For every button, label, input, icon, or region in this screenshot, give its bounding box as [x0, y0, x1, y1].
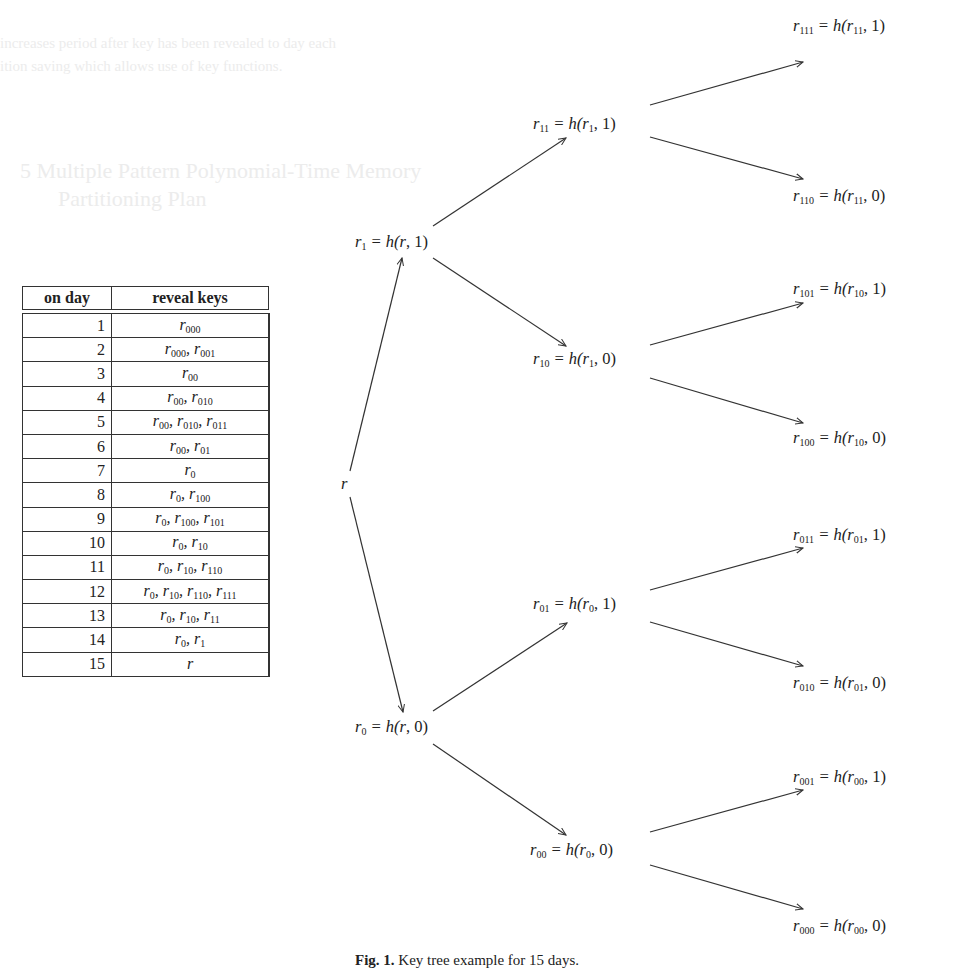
- key-symbol: r010: [793, 673, 814, 692]
- figure-caption: Fig. 1. Key tree example for 15 days.: [355, 952, 579, 969]
- key-symbol: r1: [355, 232, 366, 251]
- tree-node-r00: r00 = h(r0, 0): [530, 842, 613, 860]
- key-symbol: r11: [847, 186, 863, 205]
- edge-arrow-r10-to-r100: [650, 378, 803, 423]
- key-symbol: r00: [848, 916, 864, 935]
- tree-node-r01: r01 = h(r0, 1): [533, 596, 616, 614]
- edge-arrow-r-to-r0: [350, 497, 403, 712]
- key-symbol: r000: [793, 916, 814, 935]
- tree-node-r010: r010 = h(r01, 0): [793, 675, 886, 693]
- key-symbol: r001: [793, 767, 814, 786]
- edge-arrow-r01-to-r011: [650, 548, 803, 590]
- key-symbol: r011: [793, 525, 814, 544]
- edge-arrow-r11-to-r110: [650, 137, 803, 179]
- key-symbol: r110: [793, 186, 814, 205]
- root-label: r: [341, 474, 347, 493]
- edge-arrow-r1-to-r11: [433, 138, 566, 226]
- edge-arrow-r0-to-r00: [433, 744, 566, 835]
- caption-text: Key tree example for 15 days.: [398, 952, 579, 968]
- tree-node-root: r: [341, 476, 347, 493]
- tree-node-r001: r001 = h(r00, 1): [793, 769, 886, 787]
- key-symbol: r01: [847, 525, 863, 544]
- tree-node-r111: r111 = h(r11, 1): [793, 18, 885, 36]
- key-symbol: r10: [848, 279, 864, 298]
- edge-arrow-r10-to-r101: [650, 303, 803, 345]
- key-symbol: r100: [793, 428, 814, 447]
- key-symbol: r0: [583, 594, 594, 613]
- key-symbol: r1: [582, 114, 593, 133]
- key-symbol: r00: [530, 840, 546, 859]
- tree-node-r10: r10 = h(r1, 0): [533, 351, 616, 369]
- edge-arrow-r0-to-r01: [433, 623, 567, 711]
- key-symbol: r0: [580, 840, 591, 859]
- tree-node-r11: r11 = h(r1, 1): [533, 116, 616, 134]
- tree-node-r1: r1 = h(r, 1): [355, 234, 428, 252]
- key-symbol: r0: [355, 717, 366, 736]
- tree-node-r0: r0 = h(r, 0): [355, 719, 428, 737]
- key-symbol: r10: [848, 428, 864, 447]
- tree-edges: [0, 0, 956, 969]
- edge-arrow-r-to-r1: [350, 258, 402, 471]
- key-symbol: r101: [793, 279, 814, 298]
- edge-arrow-r1-to-r10: [433, 258, 566, 346]
- key-symbol: r1: [583, 349, 594, 368]
- key-symbol: r01: [533, 594, 549, 613]
- key-symbol: r00: [848, 767, 864, 786]
- edge-arrow-r11-to-r111: [650, 62, 803, 105]
- tree-node-r101: r101 = h(r10, 1): [793, 281, 886, 299]
- key-symbol: r11: [533, 114, 549, 133]
- edge-arrow-r00-to-r001: [650, 790, 803, 832]
- tree-node-r110: r110 = h(r11, 0): [793, 188, 885, 206]
- tree-node-r100: r100 = h(r10, 0): [793, 430, 886, 448]
- edge-arrow-r01-to-r010: [650, 622, 803, 666]
- key-symbol: r01: [848, 673, 864, 692]
- key-symbol: r10: [533, 349, 549, 368]
- tree-node-r000: r000 = h(r00, 0): [793, 918, 886, 936]
- tree-node-r011: r011 = h(r01, 1): [793, 527, 886, 545]
- key-symbol: r111: [793, 16, 814, 35]
- caption-label: Fig. 1.: [355, 952, 395, 968]
- key-symbol: r11: [847, 16, 863, 35]
- edge-arrow-r00-to-r000: [650, 865, 803, 909]
